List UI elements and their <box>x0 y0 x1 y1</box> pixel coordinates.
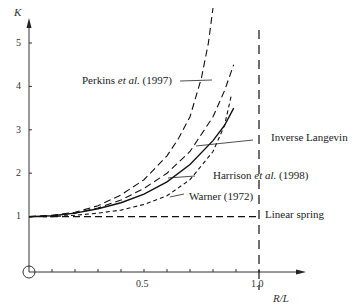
series-line-perkins-et-al-1997- <box>29 8 213 217</box>
legend-label-perkins: Perkins et al. (1997) <box>82 74 172 86</box>
legend-label-warner: Warner (1972) <box>189 190 253 202</box>
y-tick-label: 4 <box>16 80 21 91</box>
y-tick-label: 3 <box>16 124 21 135</box>
legend-label-inverse-langevin: Inverse Langevin <box>271 131 348 143</box>
chart-canvas <box>0 0 360 307</box>
inverse-langevin-pointer <box>196 140 253 146</box>
x-tick-label: 1.0 <box>251 278 264 289</box>
y-tick-label: 1 <box>16 210 21 221</box>
warner-pointer <box>170 194 184 197</box>
y-tick-label: 5 <box>16 37 21 48</box>
x-axis-arrow-icon <box>296 270 306 275</box>
y-tick-label: 2 <box>16 167 21 178</box>
legend-label-harrison: Harrison et al. (1998) <box>213 169 308 181</box>
x-axis-label: R/L <box>273 292 289 304</box>
y-axis-arrow-icon <box>27 18 32 28</box>
legend-label-linear-spring: Linear spring <box>265 208 324 220</box>
y-axis-label: K <box>14 6 21 18</box>
axes <box>23 18 306 278</box>
x-tick-label: 0.5 <box>136 278 149 289</box>
perkins-pointer <box>180 80 212 81</box>
